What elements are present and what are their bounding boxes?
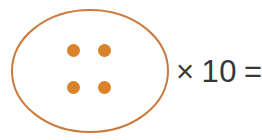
group-ellipse-outline	[12, 10, 168, 132]
multiplication-group-problem: × 10 =	[0, 0, 262, 140]
multiplier-value: 10	[202, 56, 237, 87]
group-of-counters-diagram	[0, 0, 180, 140]
multiplication-sign: ×	[176, 56, 195, 87]
equals-sign: =	[244, 56, 262, 87]
equation-expression: × 10 =	[176, 0, 262, 140]
counter-dot-2	[98, 44, 111, 57]
counter-dot-3	[67, 81, 80, 94]
counter-dot-1	[67, 44, 80, 57]
counter-dot-4	[98, 81, 111, 94]
